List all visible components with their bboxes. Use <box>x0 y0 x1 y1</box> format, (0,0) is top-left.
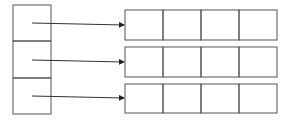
array-cell <box>201 10 239 40</box>
array-row-0 <box>125 10 277 40</box>
array-cell <box>125 84 163 113</box>
array-cell <box>201 84 239 113</box>
pointer-array-diagram <box>0 0 288 122</box>
arrow-2 <box>32 96 124 98</box>
array-cell <box>239 84 277 113</box>
array-cell <box>163 10 201 40</box>
array-row-2 <box>125 84 277 113</box>
array-cell <box>163 47 201 77</box>
array-cell <box>125 47 163 77</box>
arrows <box>32 23 124 98</box>
array-cell <box>201 47 239 77</box>
array-row-1 <box>125 47 277 77</box>
array-cell <box>239 47 277 77</box>
array-cell <box>163 84 201 113</box>
pointer-column <box>13 5 51 114</box>
arrow-1 <box>32 60 124 62</box>
arrow-0 <box>32 23 124 25</box>
pointer-cell-1 <box>13 41 51 78</box>
array-cell <box>125 10 163 40</box>
array-cell <box>239 10 277 40</box>
